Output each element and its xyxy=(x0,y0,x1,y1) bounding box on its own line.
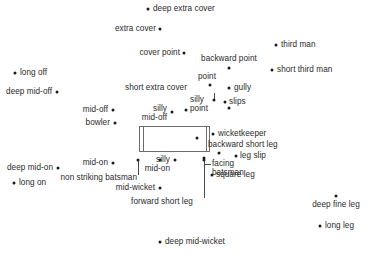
fielder-dot-pitch-dot-right[interactable] xyxy=(196,137,199,140)
fielder-dot-extra-cover[interactable] xyxy=(159,28,162,31)
bowler-end-crease xyxy=(143,126,144,152)
fielder-label-short-extra-cover: short extra cover xyxy=(125,83,187,92)
fielder-dot-long-off[interactable] xyxy=(14,72,17,75)
fielder-dot-long-leg[interactable] xyxy=(319,225,322,228)
fielder-dot-silly-mid-on[interactable] xyxy=(174,159,177,162)
fielder-dot-bowler[interactable] xyxy=(114,122,117,125)
batsman-end-crease xyxy=(206,126,207,152)
fielder-label-extra-cover: extra cover xyxy=(115,24,156,33)
fielder-dot-deep-mid-off[interactable] xyxy=(56,91,59,94)
fielder-label-bowler: bowler xyxy=(86,118,110,127)
fielder-label-deep-mid-off: deep mid-off xyxy=(6,87,52,96)
facing-batsman-leader-h xyxy=(204,164,211,165)
fielder-dot-wicketkeeper[interactable] xyxy=(212,133,215,136)
fielder-label-mid-on: mid-on xyxy=(83,158,108,167)
fielder-label-deep-extra-cover: deep extra cover xyxy=(153,4,215,13)
fielder-label-mid-wicket: mid-wicket xyxy=(116,183,155,192)
fielder-label-short-third-man: short third man xyxy=(277,65,332,74)
fielder-dot-deep-mid-on[interactable] xyxy=(57,167,60,170)
fielder-dot-mid-wicket[interactable] xyxy=(159,187,162,190)
fielder-label-long-leg: long leg xyxy=(325,221,354,230)
fielder-dot-forward-short-leg[interactable] xyxy=(203,159,206,162)
fielder-label-third-man: third man xyxy=(281,40,316,49)
fielder-dot-gully[interactable] xyxy=(228,87,231,90)
fielder-label-deep-fine-leg: deep fine leg xyxy=(312,200,360,209)
fielder-dot-backward-short-leg[interactable] xyxy=(218,152,221,155)
fielder-dot-short-extra-cover[interactable] xyxy=(213,99,216,102)
fielder-dot-non-striking-batsman[interactable] xyxy=(137,159,140,162)
fielder-label-square-leg: square leg xyxy=(216,170,255,179)
cricket-pitch xyxy=(139,126,210,152)
fielder-label-point: point xyxy=(198,72,216,81)
fielder-label-deep-mid-on: deep mid-on xyxy=(7,163,53,172)
non-striking-batsman-leader xyxy=(138,160,139,175)
fielder-dot-silly-mid-off[interactable] xyxy=(171,111,174,114)
fielder-dot-silly-point[interactable] xyxy=(185,109,188,112)
fielder-dot-third-man[interactable] xyxy=(275,44,278,47)
fielder-label-non-striking-batsman: non striking batsman xyxy=(60,173,137,182)
fielder-dot-cover-point[interactable] xyxy=(183,52,186,55)
fielder-dot-backward-point[interactable] xyxy=(228,67,231,70)
fielder-label-slips: slips xyxy=(229,97,246,106)
fielder-label-mid-off: mid-off xyxy=(83,105,108,114)
fielder-label-forward-short-leg: forward short leg xyxy=(131,197,193,206)
fielder-dot-deep-extra-cover[interactable] xyxy=(147,8,150,11)
fielder-dot-slips[interactable] xyxy=(224,101,227,104)
forward-short-leg-leader xyxy=(204,164,205,198)
fielder-dot-short-third-man[interactable] xyxy=(271,69,274,72)
fielder-label-long-on: long on xyxy=(19,178,46,187)
fielder-label-gully: gully xyxy=(234,83,251,92)
fielder-label-silly-point: silly point xyxy=(190,95,208,114)
fielder-label-cover-point: cover point xyxy=(139,48,180,57)
fielder-label-long-off: long off xyxy=(20,68,47,77)
fielder-label-silly-mid-off: silly mid-off xyxy=(142,104,167,123)
fielder-dot-deep-fine-leg[interactable] xyxy=(335,195,338,198)
fielder-label-backward-short-leg: backward short leg xyxy=(208,140,278,149)
fielder-dot-long-on[interactable] xyxy=(13,182,16,185)
fielder-dot-point[interactable] xyxy=(209,84,212,87)
fielder-label-deep-mid-wicket: deep mid-wicket xyxy=(165,237,225,246)
fielder-dot-leg-slip[interactable] xyxy=(235,155,238,158)
fielder-dot-slips-lower[interactable] xyxy=(228,107,231,110)
cricket-fielding-positions-diagram: deep extra coverextra coverthird mancove… xyxy=(0,0,366,255)
fielder-dot-mid-off[interactable] xyxy=(112,109,115,112)
fielder-label-leg-slip: leg slip xyxy=(240,151,266,160)
fielder-dot-mid-on[interactable] xyxy=(112,162,115,165)
fielder-dot-deep-mid-wicket[interactable] xyxy=(159,241,162,244)
fielder-label-silly-mid-on: silly mid-on xyxy=(145,155,170,174)
fielder-label-wicketkeeper: wicketkeeper xyxy=(218,129,266,138)
fielder-label-backward-point: backward point xyxy=(201,54,257,63)
